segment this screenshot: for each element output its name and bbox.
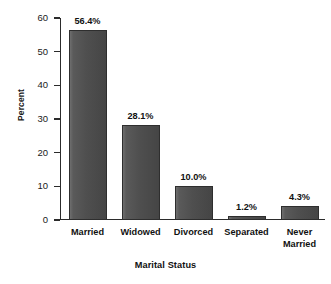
y-axis-tick-label: 60 [8,13,48,23]
bar [69,30,107,220]
bar-value-label: 10.0% [164,173,224,182]
x-axis-tick-label-line: Never [268,227,331,239]
bar [122,125,160,220]
y-axis-tick-label: 10 [8,182,48,192]
bar-value-label: 4.3% [270,193,330,202]
y-axis-tick-label: 0 [8,215,48,225]
x-axis-title: Marital Status [0,260,331,270]
x-axis-tick-label: NeverMarried [268,227,331,250]
bar [228,216,266,220]
y-axis-tick-label: 50 [8,47,48,57]
bar-chart: Percent 0102030405060 MarriedWidowedDivo… [0,0,331,284]
bar [281,206,319,220]
y-axis-tick-label: 30 [8,114,48,124]
y-axis-tick-label: 20 [8,148,48,158]
bar-value-label: 1.2% [217,203,277,212]
plot-area [60,18,325,220]
bar-value-label: 28.1% [111,112,171,121]
x-axis-tick-label-line: Married [268,239,331,251]
bar [175,186,213,220]
y-axis-tick-label: 40 [8,81,48,91]
bar-value-label: 56.4% [58,17,118,26]
